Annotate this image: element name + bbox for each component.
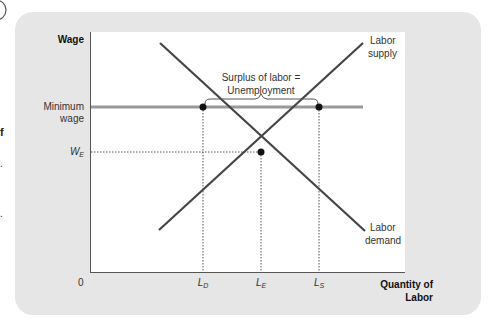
ls-label: LS <box>306 277 332 292</box>
ls-point <box>316 104 323 111</box>
labor-market-graph <box>0 0 498 324</box>
demand-label-line2: demand <box>365 235 401 247</box>
le-label: LE <box>248 277 274 292</box>
min-wage-label-line2: wage <box>20 113 84 125</box>
surplus-label-line2: Unemployment <box>200 85 322 97</box>
demand-label-line1: Labor <box>370 222 396 234</box>
min-wage-label-line1: Minimum <box>20 101 84 113</box>
ls-label-sub: S <box>319 282 324 289</box>
we-label-main: W <box>70 146 79 157</box>
ld-point <box>200 104 207 111</box>
supply-label-line1: Labor <box>370 35 396 47</box>
we-label: WE <box>50 146 84 161</box>
y-axis-label: Wage <box>40 34 84 46</box>
origin-label: 0 <box>78 277 84 289</box>
x-axis-label-line1: Quantity of <box>340 279 433 291</box>
ld-label: LD <box>190 277 216 292</box>
surplus-label-line1: Surplus of labor = <box>200 72 322 84</box>
le-label-sub: E <box>261 282 266 289</box>
equilibrium-point <box>258 149 265 156</box>
we-label-sub: E <box>79 151 84 158</box>
supply-label-line2: supply <box>368 48 397 60</box>
ld-label-sub: D <box>203 282 208 289</box>
x-axis-label-line2: Labor <box>340 292 433 304</box>
